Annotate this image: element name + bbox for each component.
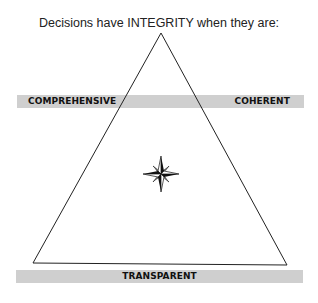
integrity-triangle [0, 0, 318, 303]
compass-rose-icon [143, 156, 179, 192]
